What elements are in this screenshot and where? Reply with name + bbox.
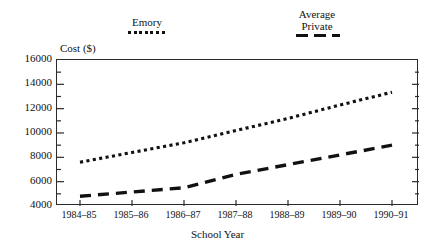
legend-dot xyxy=(139,31,142,34)
legend-label-emory: Emory xyxy=(108,17,186,29)
x-axis-tick-label: 1990–91 xyxy=(361,209,421,220)
legend-dot xyxy=(145,31,148,34)
x-axis-tick-label: 1986–87 xyxy=(153,209,213,220)
y-axis-tick-label: 10000 xyxy=(2,125,52,137)
legend-swatch-emory-dotted xyxy=(108,31,186,36)
legend-dot xyxy=(134,31,137,34)
legend-dash xyxy=(332,34,340,37)
y-axis-tick-label: 16000 xyxy=(2,52,52,64)
legend-dot xyxy=(150,31,153,34)
legend-swatch-average-private-dashed xyxy=(278,34,356,39)
plot-series-svg xyxy=(57,60,419,206)
x-axis-tick-label: 1988–89 xyxy=(257,209,317,220)
chart-figure: Emory Average Private Cost ($) 160001400… xyxy=(0,0,435,250)
y-axis-tick-label: 14000 xyxy=(2,76,52,88)
legend-dot xyxy=(162,31,165,34)
plot-area xyxy=(56,59,418,205)
legend-item-emory: Emory xyxy=(108,17,186,36)
y-axis-tick-label: 12000 xyxy=(2,101,52,113)
legend-dot xyxy=(156,31,159,34)
y-axis-title: Cost ($) xyxy=(60,42,96,54)
x-axis-tick-labels: 1984–851985–861986–871987–881988–891989–… xyxy=(0,209,435,229)
legend-dash xyxy=(296,34,308,37)
legend-dot xyxy=(128,31,131,34)
legend-item-average-private: Average Private xyxy=(278,9,356,39)
legend-label-private: Private xyxy=(278,21,356,33)
x-axis-title: School Year xyxy=(0,228,435,240)
x-axis-tick-label: 1989–90 xyxy=(309,209,369,220)
legend-label-average: Average xyxy=(278,9,356,21)
y-axis-tick-label: 6000 xyxy=(2,174,52,186)
legend-dash xyxy=(314,34,326,37)
y-axis-tick-label: 8000 xyxy=(2,149,52,161)
x-axis-tick-label: 1984–85 xyxy=(49,209,109,220)
series-line-emory xyxy=(80,92,392,162)
x-axis-tick-label: 1987–88 xyxy=(205,209,265,220)
x-axis-tick-label: 1985–86 xyxy=(101,209,161,220)
